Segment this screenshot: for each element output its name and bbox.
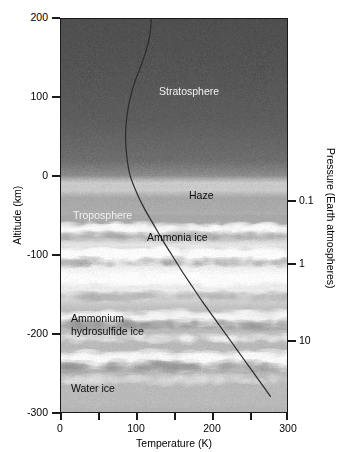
y-tick-100 xyxy=(52,96,60,98)
x-tick-label-200: 200 xyxy=(192,423,232,434)
pressure-tick-label-1: 1 xyxy=(299,258,305,269)
pressure-axis-title: Pressure (Earth atmospheres) xyxy=(326,134,337,302)
y-axis-title: Altitude (km) xyxy=(12,170,23,260)
x-tick-200 xyxy=(212,413,214,420)
pressure-tick-0-1 xyxy=(288,200,296,202)
x-tick-100 xyxy=(136,413,138,420)
y-tick-neg300 xyxy=(52,412,60,414)
pressure-tick-1 xyxy=(288,263,296,265)
x-tick-label-300: 300 xyxy=(268,423,308,434)
x-tick-0 xyxy=(60,413,62,420)
temperature-profile-curve xyxy=(61,19,287,412)
y-tick-label-100: 100 xyxy=(8,91,48,102)
x-axis-title: Temperature (K) xyxy=(104,438,244,449)
y-tick-neg100 xyxy=(52,254,60,256)
x-tick-150 xyxy=(174,413,176,420)
atmosphere-profile-figure: Stratosphere Troposphere Haze Ammonia ic… xyxy=(0,0,341,452)
pressure-tick-10 xyxy=(288,340,296,342)
y-tick-200 xyxy=(52,17,60,19)
y-tick-label-neg300: -300 xyxy=(8,407,48,418)
y-tick-0 xyxy=(52,175,60,177)
pressure-tick-label-0-1: 0.1 xyxy=(299,195,314,206)
y-tick-label-neg200: -200 xyxy=(8,328,48,339)
x-tick-300 xyxy=(286,413,288,420)
y-tick-label-200: 200 xyxy=(8,12,48,23)
plot-area: Stratosphere Troposphere Haze Ammonia ic… xyxy=(60,18,288,413)
y-tick-neg200 xyxy=(52,333,60,335)
x-tick-250 xyxy=(250,413,252,420)
x-tick-label-100: 100 xyxy=(116,423,156,434)
pressure-tick-label-10: 10 xyxy=(299,335,311,346)
x-tick-50 xyxy=(98,413,100,420)
x-tick-label-0: 0 xyxy=(40,423,80,434)
